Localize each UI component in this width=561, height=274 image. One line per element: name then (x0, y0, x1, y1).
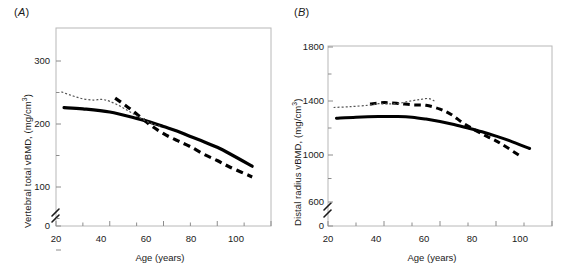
panel-b-frame (328, 46, 552, 226)
curve-dashed-thick (370, 103, 521, 157)
panel-a-curves (61, 92, 252, 177)
panel-b-plot (280, 0, 560, 274)
panel-b-ticks (328, 47, 552, 226)
curve-dashed-thick (115, 98, 252, 177)
curve-solid-thick (336, 116, 529, 148)
panel-a-plot (0, 0, 280, 274)
panel-b-curves (334, 99, 530, 157)
panel-a: (A) Vertebral total vBMD, (mg/cm3) Age (… (0, 0, 280, 274)
panel-b: (B) Distal radius vBMD, (mg/cm3) Age (ye… (280, 0, 560, 274)
panel-a-ticks (56, 61, 271, 250)
curve-solid-thick (64, 108, 252, 167)
figure-container: (A) Vertebral total vBMD, (mg/cm3) Age (… (0, 0, 561, 274)
